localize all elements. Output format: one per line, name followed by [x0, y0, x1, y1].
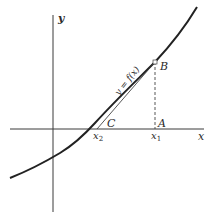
x1-label: x1 — [151, 130, 161, 143]
curve-label: y = f(x) — [112, 64, 142, 98]
y-axis-label: y — [57, 12, 66, 25]
point-b-label: B — [159, 60, 168, 73]
x2-label: x2 — [93, 130, 103, 143]
x-axis-label: x — [198, 130, 205, 143]
point-c-label: C — [107, 117, 116, 130]
tangent-line — [97, 62, 155, 129]
function-curve — [10, 7, 197, 178]
point-b-marker — [153, 60, 157, 64]
point-a-label: A — [157, 117, 166, 130]
diagram-canvas: y x B A C x1 x2 y = f(x) — [0, 0, 211, 221]
